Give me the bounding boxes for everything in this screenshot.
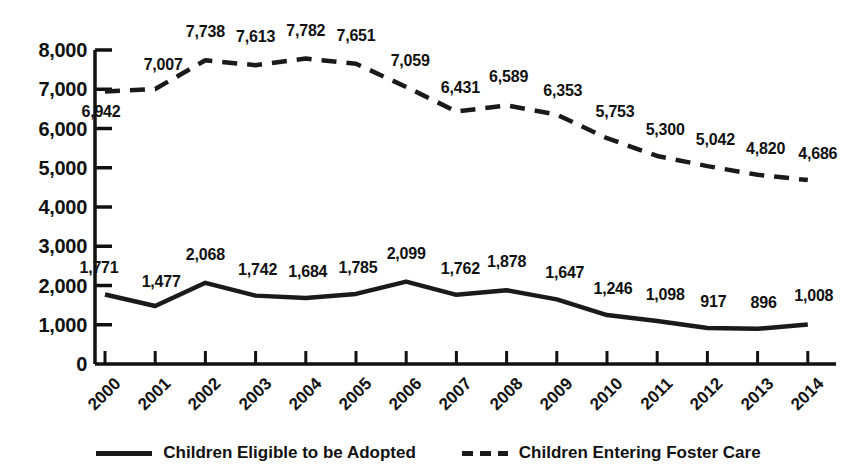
line-chart: 01,0002,0003,0004,0005,0006,0007,0008,00… (0, 0, 857, 473)
data-label-entering: 5,042 (696, 131, 735, 149)
y-axis-tick-label: 8,000 (0, 39, 87, 62)
data-label-entering: 6,431 (441, 79, 480, 97)
y-axis-tick-label: 6,000 (0, 117, 87, 140)
data-label-eligible: 1,742 (238, 261, 277, 279)
data-label-eligible: 1,785 (338, 259, 377, 277)
dashed-line-marker-icon (462, 451, 508, 456)
data-label-eligible: 1,246 (593, 280, 632, 298)
data-label-entering: 5,753 (595, 103, 634, 121)
data-label-eligible: 1,477 (142, 273, 181, 291)
y-axis-tick-label: 0 (0, 353, 87, 376)
chart-legend: Children Eligible to be Adopted Children… (0, 436, 857, 470)
data-label-eligible: 1,762 (441, 260, 480, 278)
chart-axes (95, 50, 836, 364)
y-axis-tick-label: 2,000 (0, 274, 87, 297)
data-label-entering: 7,059 (391, 52, 430, 70)
data-label-entering: 7,782 (286, 22, 325, 40)
data-label-entering: 7,007 (144, 56, 183, 74)
y-axis-tick-label: 3,000 (0, 235, 87, 258)
data-label-eligible: 2,068 (186, 246, 225, 264)
y-axis-tick-label: 7,000 (0, 78, 87, 101)
data-label-entering: 5,300 (646, 121, 685, 139)
data-label-eligible: 1,008 (794, 287, 833, 305)
data-label-eligible: 917 (700, 293, 726, 311)
chart-canvas (0, 0, 857, 473)
data-label-entering: 4,686 (798, 145, 837, 163)
data-label-eligible: 1,878 (487, 253, 526, 271)
legend-label-entering: Children Entering Foster Care (519, 443, 761, 463)
data-label-entering: 7,613 (236, 28, 275, 46)
chart-series (105, 59, 808, 329)
data-label-entering: 6,942 (81, 103, 120, 121)
legend-item-entering: Children Entering Foster Care (462, 443, 761, 463)
solid-line-marker-icon (96, 451, 152, 456)
y-axis-tick-label: 4,000 (0, 196, 87, 219)
legend-item-eligible: Children Eligible to be Adopted (96, 443, 415, 463)
data-label-eligible: 2,099 (387, 245, 426, 263)
y-axis-tick-label: 1,000 (0, 313, 87, 336)
data-label-entering: 7,738 (186, 23, 225, 41)
data-label-eligible: 1,771 (79, 259, 118, 277)
legend-label-eligible: Children Eligible to be Adopted (163, 443, 415, 463)
data-label-eligible: 1,684 (288, 263, 327, 281)
data-label-eligible: 1,647 (545, 264, 584, 282)
series-line-entering (105, 59, 808, 181)
y-axis-tick-label: 5,000 (0, 156, 87, 179)
data-label-entering: 7,651 (336, 27, 375, 45)
data-label-entering: 6,353 (543, 82, 582, 100)
data-label-entering: 4,820 (746, 140, 785, 158)
data-label-entering: 6,589 (489, 68, 528, 86)
data-label-eligible: 1,098 (646, 286, 685, 304)
data-label-eligible: 896 (751, 294, 777, 312)
